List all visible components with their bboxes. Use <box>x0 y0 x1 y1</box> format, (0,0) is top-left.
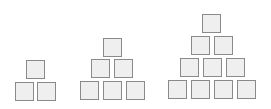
square-block <box>202 14 221 33</box>
square-block <box>214 36 233 55</box>
square-block <box>203 58 222 77</box>
square-block <box>191 80 210 99</box>
square-block <box>226 58 245 77</box>
pyramid-3 <box>0 0 271 109</box>
square-block <box>168 80 187 99</box>
square-block <box>237 80 256 99</box>
square-block <box>180 58 199 77</box>
square-block <box>191 36 210 55</box>
square-block <box>214 80 233 99</box>
